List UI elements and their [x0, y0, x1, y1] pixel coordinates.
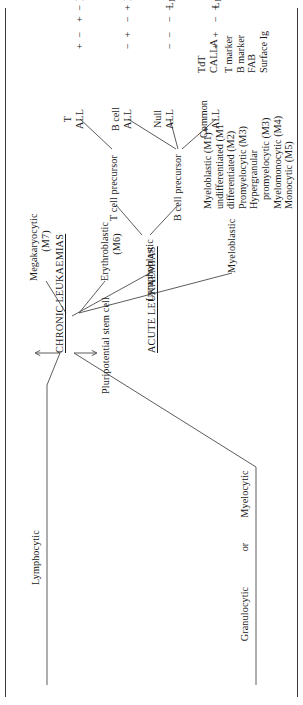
heading-lymphocytic: Lymphocytic	[30, 530, 41, 585]
column-header-common-all-line1: Common	[198, 81, 210, 157]
stem-cell-label: Pluripotential stem cell	[100, 297, 111, 394]
chronic-lymphoid-link	[47, 353, 60, 385]
marker-value-cell: −	[210, 0, 221, 12]
fab-subtype-item: differentiated (M2)	[225, 116, 237, 209]
marker-row-label: TdT	[196, 39, 208, 73]
column-header-null-all-line1: Null	[152, 89, 164, 149]
column-header-common-all-line2: ALL	[210, 81, 222, 157]
column-header-b-cell-all-line2: ALL	[122, 89, 134, 149]
megakaryocytic-label: Megakaryocytic	[28, 213, 39, 281]
marker-value-cell: +	[122, 0, 133, 12]
fab-subtype-item: Hypergranular	[248, 116, 260, 209]
chronic-leukaemias-label: CHRONIC LEUKAEMIAS	[54, 234, 65, 353]
column-header-b-cell-all: B cell ALL	[110, 89, 133, 149]
heading-or: or	[239, 535, 250, 559]
figure-canvas: Lymphocytic Granulocytic or Myelocytic C…	[0, 0, 303, 705]
column-header-null-all-line2: ALL	[164, 89, 176, 149]
megakaryocytic-code: (M7)	[40, 201, 51, 281]
marker-row-label: T marker	[223, 31, 235, 73]
marker-value-cell: −	[164, 0, 175, 12]
fab-subtype-item: Promyelocytic (M3)	[237, 116, 249, 209]
heading-myelocytic: Myelocytic	[239, 459, 250, 529]
column-header-t-all-line1: T	[62, 89, 74, 149]
column-header-common-all: Common ALL	[198, 81, 221, 157]
figure-page: Lymphocytic Granulocytic or Myelocytic C…	[0, 0, 303, 705]
erythroblastic-label: Erythroblastic	[99, 222, 110, 281]
column-header-null-all: Null ALL	[152, 89, 175, 149]
marker-value-cell: −	[74, 0, 85, 12]
b-cell-precursor-label: B cell precursor	[172, 154, 183, 221]
column-header-t-all-line2: ALL	[74, 89, 86, 149]
marker-row-label: B marker	[235, 31, 247, 73]
column-header-b-cell-all-line1: B cell	[110, 89, 122, 149]
marker-row-label: FAB	[246, 31, 258, 73]
fab-subtype-item: Monocytic (M5)	[283, 116, 295, 209]
fab-subtype-item: promyelocytic (M3)	[260, 116, 272, 209]
t-cell-precursor-label: T cell precursor	[108, 155, 119, 221]
marker-row-label: Surface Ig	[258, 31, 270, 73]
fab-subtype-item: Myelomonocytic (M4)	[272, 116, 284, 209]
column-header-t-all: T ALL	[62, 89, 85, 149]
myeloblastic-label: Myeloblastic	[226, 219, 237, 273]
lymphoblastic-label: Lymphoblastic	[144, 239, 155, 301]
heading-granulocytic: Granulocytic	[239, 569, 250, 659]
marker-row-labels-group2: T markerB markerFABSurface Ig	[223, 31, 269, 73]
